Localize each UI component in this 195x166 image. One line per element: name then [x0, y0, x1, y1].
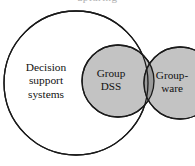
- label-line: DSS: [101, 79, 122, 91]
- label-decision-support-systems: Decisionsupportsystems: [26, 60, 67, 99]
- label-line: Group: [97, 66, 126, 78]
- label-line: systems: [28, 87, 65, 99]
- venn-diagram-canvas: Decisionsupportsystems GroupDSS Group-wa…: [0, 0, 195, 166]
- venn-diagram-figure: apturing Decisionsupportsystems GroupDSS…: [0, 0, 195, 166]
- label-line: support: [29, 74, 64, 86]
- label-line: Decision: [26, 60, 67, 72]
- label-line: Group-: [156, 68, 189, 80]
- label-line: ware: [161, 81, 183, 93]
